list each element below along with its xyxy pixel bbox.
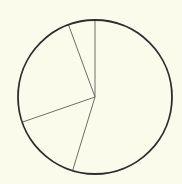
pie-chart [0, 0, 182, 184]
